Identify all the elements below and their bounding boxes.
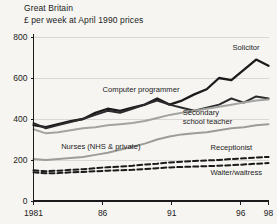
series-label: Receptionist — [210, 143, 253, 152]
x-axis-label: 1981 — [24, 208, 43, 218]
series-label: Computer programmer — [103, 85, 180, 94]
y-axis-label: 200 — [13, 155, 27, 165]
series-labels-group: SolicitorComputer programmerSecondarysch… — [61, 43, 262, 177]
series-label: Nurses (NHS & private) — [61, 142, 141, 151]
x-axis-label: 86 — [98, 208, 108, 218]
y-axis-label: 0 — [23, 196, 28, 206]
chart-container: Great Britain £ per week at April 1990 p… — [0, 0, 277, 224]
x-axis-labels-group: 198186919698 — [24, 208, 273, 218]
series-label: Solicitor — [233, 43, 260, 52]
y-axis-label: 800 — [13, 32, 27, 42]
line-chart-plot: 0200400600800 198186919698 SolicitorComp… — [0, 0, 277, 224]
y-axis-label: 600 — [13, 73, 27, 83]
x-axis-label: 96 — [236, 208, 246, 218]
series-lines-group — [34, 60, 269, 174]
x-axis-label: 98 — [264, 208, 274, 218]
y-axis-label: 400 — [13, 114, 27, 124]
y-axis-labels-group: 0200400600800 — [13, 32, 27, 206]
x-axis-label: 91 — [167, 208, 177, 218]
series-label: Secondaryschool teacher — [183, 108, 233, 127]
series-label: Waiter/waitress — [210, 168, 262, 177]
